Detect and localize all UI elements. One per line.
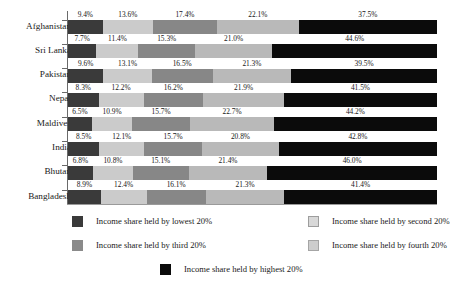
stacked-bar — [68, 117, 437, 131]
value-label-group: 8.3%12.2%16.2%21.9%41.5% — [68, 82, 437, 93]
bar-segment — [68, 166, 93, 180]
bar-segment — [144, 93, 204, 107]
legend-label: Income share held by second 20% — [332, 216, 450, 227]
legend-row: Income share held by lowest 20%Income sh… — [0, 210, 445, 232]
bar-segment — [147, 190, 206, 204]
legend-item[interactable]: Income share held by fourth 20% — [308, 234, 447, 256]
segment-value-label: 15.1% — [133, 155, 189, 166]
bar-segment — [138, 44, 194, 58]
legend-color-swatch — [308, 240, 319, 251]
category-label: Maldives — [0, 118, 71, 129]
legend-row: Income share held by third 20%Income sha… — [0, 234, 445, 256]
legend-item[interactable]: Income share held by third 20% — [72, 234, 206, 256]
segment-value-label: 6.5% — [68, 106, 92, 117]
segment-value-label: 15.7% — [144, 131, 202, 142]
segment-value-label: 12.2% — [99, 82, 144, 93]
stacked-bar — [68, 166, 437, 180]
bar-row: Nepal8.3%12.2%16.2%21.9%41.5% — [0, 84, 445, 108]
chart-legend: Income share held by lowest 20%Income sh… — [0, 210, 445, 283]
value-label-group: 8.9%12.4%16.1%21.3%41.4% — [68, 179, 437, 190]
segment-value-label: 11.4% — [96, 33, 138, 44]
bar-segment — [68, 44, 96, 58]
segment-value-label: 21.0% — [195, 33, 272, 44]
bar-segment — [195, 44, 272, 58]
legend-item[interactable]: Income share held by second 20% — [308, 210, 450, 232]
segment-value-label: 9.6% — [68, 58, 103, 69]
category-label: Afghanistan — [0, 21, 71, 32]
segment-value-label: 42.8% — [279, 131, 437, 142]
category-label: Bangladesh — [0, 191, 71, 202]
segment-value-label: 20.8% — [202, 131, 279, 142]
plot-area: Afghanistan9.4%13.6%17.4%22.1%37.5%Sri L… — [0, 0, 445, 207]
bar-segment — [217, 20, 299, 34]
bar-segment — [284, 190, 437, 204]
bar-segment — [203, 93, 284, 107]
segment-value-label: 21.4% — [189, 155, 268, 166]
bar-segment — [189, 166, 268, 180]
segment-value-label: 13.6% — [103, 9, 153, 20]
segment-value-label: 44.2% — [274, 106, 437, 117]
segment-value-label: 21.9% — [203, 82, 284, 93]
value-label-group: 6.8%10.8%15.1%21.4%46.0% — [68, 155, 437, 166]
bar-segment — [272, 44, 437, 58]
bar-row: Pakistan9.6%13.1%16.5%21.3%39.5% — [0, 60, 445, 84]
bar-segment — [68, 93, 99, 107]
bar-row: Afghanistan9.4%13.6%17.4%22.1%37.5% — [0, 11, 445, 35]
segment-value-label: 41.4% — [284, 179, 437, 190]
bar-segment — [68, 20, 103, 34]
bar-segment — [190, 117, 274, 131]
value-label-group: 9.6%13.1%16.5%21.3%39.5% — [68, 58, 437, 69]
bar-segment — [68, 190, 101, 204]
bar-segment — [101, 190, 147, 204]
legend-item[interactable]: Income share held by highest 20% — [160, 258, 303, 280]
stacked-bar — [68, 190, 437, 204]
segment-value-label: 37.5% — [299, 9, 437, 20]
bar-segment — [291, 69, 437, 83]
bar-row: Bangladesh8.9%12.4%16.1%21.3%41.4% — [0, 181, 445, 205]
bar-row: India8.5%12.1%15.7%20.8%42.8% — [0, 133, 445, 157]
value-label-group: 9.4%13.6%17.4%22.1%37.5% — [68, 9, 437, 20]
legend-item[interactable]: Income share held by lowest 20% — [72, 210, 212, 232]
stacked-bar — [68, 20, 437, 34]
bar-segment — [103, 69, 151, 83]
bar-segment — [103, 20, 153, 34]
segment-value-label: 46.0% — [267, 155, 437, 166]
segment-value-label: 16.1% — [147, 179, 206, 190]
segment-value-label: 22.1% — [217, 9, 299, 20]
category-label: Pakistan — [0, 69, 71, 80]
bar-segment — [267, 166, 437, 180]
segment-value-label: 17.4% — [153, 9, 217, 20]
segment-value-label: 9.4% — [68, 9, 103, 20]
segment-value-label: 7.7% — [68, 33, 96, 44]
bar-segment — [99, 142, 144, 156]
legend-color-swatch — [308, 216, 319, 227]
bar-segment — [68, 117, 92, 131]
stacked-bar — [68, 93, 437, 107]
segment-value-label: 8.5% — [68, 131, 99, 142]
segment-value-label: 10.9% — [92, 106, 132, 117]
legend-label: Income share held by fourth 20% — [332, 240, 447, 251]
segment-value-label: 13.1% — [103, 58, 151, 69]
segment-value-label: 12.4% — [101, 179, 147, 190]
category-label: India — [0, 142, 71, 153]
segment-value-label: 10.8% — [93, 155, 133, 166]
bar-segment — [202, 142, 279, 156]
bar-segment — [299, 20, 437, 34]
bar-segment — [132, 117, 190, 131]
value-label-group: 6.5%10.9%15.7%22.7%44.2% — [68, 106, 437, 117]
segment-value-label: 6.8% — [68, 155, 93, 166]
legend-label: Income share held by lowest 20% — [96, 216, 212, 227]
bar-segment — [206, 190, 285, 204]
stacked-bar — [68, 142, 437, 156]
bar-segment — [96, 44, 138, 58]
segment-value-label: 16.5% — [152, 58, 213, 69]
segment-value-label: 41.5% — [284, 82, 437, 93]
legend-row: Income share held by highest 20% — [0, 258, 445, 280]
segment-value-label: 8.9% — [68, 179, 101, 190]
segment-value-label: 44.6% — [272, 33, 437, 44]
bar-segment — [92, 117, 132, 131]
bar-segment — [153, 20, 217, 34]
bar-segment — [279, 142, 437, 156]
segment-value-label: 15.3% — [138, 33, 194, 44]
